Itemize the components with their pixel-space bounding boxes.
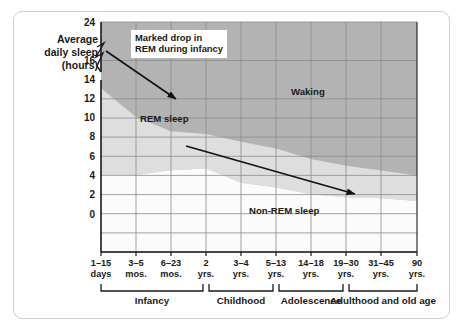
x-tick-90-yrs: 90 yrs. bbox=[397, 258, 437, 279]
x-tick-1-15-days: 1–15 days bbox=[81, 258, 121, 279]
x-tick-5-13-yrs: 5–13 yrs. bbox=[256, 258, 296, 279]
x-tick-19-30-yrs: 19–30 yrs. bbox=[326, 258, 366, 279]
waking-label: Waking bbox=[291, 86, 325, 97]
sleep-stages-figure: Average daily sleep (hours) 24 16 14 12 … bbox=[0, 0, 463, 331]
y-tick-0: 0 bbox=[71, 209, 95, 220]
stage-label-infancy: Infancy bbox=[122, 295, 182, 306]
y-tick-16: 16 bbox=[71, 55, 95, 66]
y-tick-2: 2 bbox=[71, 189, 95, 200]
x-tick-6-23-mos: 6–23 mos. bbox=[151, 258, 191, 279]
y-axis-title: Average daily sleep (hours) bbox=[20, 33, 98, 73]
y-tick-12: 12 bbox=[71, 93, 95, 104]
x-tick-14-18-yrs: 14–18 yrs. bbox=[291, 258, 331, 279]
x-tick-31-45-yrs: 31–45 yrs. bbox=[361, 258, 401, 279]
non-rem-sleep-label: Non-REM sleep bbox=[249, 205, 319, 216]
y-tick-6: 6 bbox=[71, 151, 95, 162]
y-tick-14: 14 bbox=[71, 74, 95, 85]
stage-label-adulthood: Adulthood and old age bbox=[313, 295, 453, 306]
y-tick-10: 10 bbox=[71, 112, 95, 123]
x-tick-3-5-mos: 3–5 mos. bbox=[116, 258, 156, 279]
y-tick-4: 4 bbox=[71, 170, 95, 181]
y-tick-24: 24 bbox=[71, 17, 95, 28]
x-tick-2-yrs: 2 yrs. bbox=[186, 258, 226, 279]
stage-brackets bbox=[101, 284, 417, 291]
x-tick-3-4-yrs: 3–4 yrs. bbox=[221, 258, 261, 279]
rem-sleep-label: REM sleep bbox=[140, 113, 189, 124]
stage-label-childhood: Childhood bbox=[208, 295, 274, 306]
y-tick-8: 8 bbox=[71, 131, 95, 142]
marked-drop-callout: Marked drop in REM during infancy bbox=[131, 30, 227, 58]
